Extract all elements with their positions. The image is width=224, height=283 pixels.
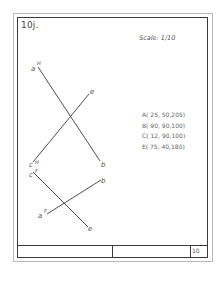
label-b-frontal: b [101,177,106,185]
label-a-frontal: a [38,212,42,220]
label-c-horizontal-sup: H [35,159,39,165]
label-e-frontal: e [88,225,92,233]
projection-drawing: a H e b c H c F b a F e [0,0,224,283]
line-ec-horizontal [33,94,89,162]
label-c-frontal-sup: F [35,168,38,174]
sheet-number: 10 [192,247,200,254]
line-ab-frontal [47,180,101,214]
label-a-horizontal-sup: H [37,60,41,66]
title-block-divider [112,245,113,258]
label-e-horizontal: e [90,88,94,96]
label-b-horizontal: b [101,161,106,169]
line-ab-horizontal [38,67,100,161]
label-c-horizontal: c [29,161,33,169]
label-c-frontal: c [29,171,33,179]
title-block-divider [190,245,191,258]
label-a-horizontal: a [31,65,35,73]
label-a-frontal-sup: F [44,208,47,214]
